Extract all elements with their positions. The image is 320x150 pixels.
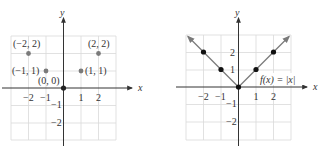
left-x-axis-label: x — [137, 82, 143, 93]
right-y-tick: −2 — [226, 116, 237, 127]
right-y-tick: 1 — [230, 64, 235, 75]
point-label: (1, 1) — [85, 65, 107, 77]
point-label: (0, 0) — [38, 75, 60, 87]
left-x-tick: 2 — [96, 92, 101, 103]
point-label: (−2, 2) — [13, 38, 40, 50]
right-x-tick: −2 — [198, 91, 209, 102]
right-x-tick: 1 — [254, 91, 259, 102]
right-point — [236, 84, 241, 89]
left-y-tick: −2 — [51, 117, 62, 128]
figure: x y −2 −1 1 2 −1 −2 (−2, 2) (−1, 1) (0, … — [0, 0, 320, 150]
left-point — [96, 51, 101, 56]
left-point — [61, 85, 66, 90]
right-y-axis-label: y — [234, 7, 240, 18]
right-point — [271, 49, 276, 54]
function-label: f(x) = |x| — [260, 74, 296, 86]
left-x-tick: −1 — [40, 92, 51, 103]
right-y-tick: 2 — [230, 47, 235, 58]
left-point — [79, 69, 84, 74]
point-label: (−1, 1) — [12, 65, 39, 77]
right-point — [201, 49, 206, 54]
left-y-axis-label: y — [59, 7, 65, 18]
left-x-tick: −2 — [23, 92, 34, 103]
right-x-tick: 2 — [271, 91, 276, 102]
left-x-tick: 1 — [79, 92, 84, 103]
left-point — [44, 69, 49, 74]
right-y-tick: −1 — [226, 98, 237, 109]
left-graph: x y −2 −1 1 2 −1 −2 (−2, 2) (−1, 1) (0, … — [2, 7, 143, 146]
right-x-axis-label: x — [312, 81, 318, 92]
right-point — [218, 67, 223, 72]
left-point — [26, 51, 31, 56]
point-label: (2, 2) — [88, 38, 110, 50]
abs-line-left — [188, 37, 239, 88]
right-x-tick: −1 — [215, 91, 226, 102]
right-graph: x y −2 −1 1 2 2 1 −1 −2 f(x) = |x| — [176, 7, 318, 146]
right-point — [253, 67, 258, 72]
left-y-tick: −1 — [51, 99, 62, 110]
